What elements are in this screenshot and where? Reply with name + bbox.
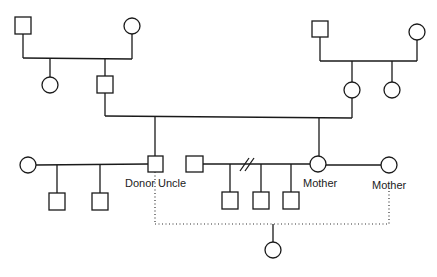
- pedigree-diagram: Donor Uncle Mother Mother: [0, 0, 437, 277]
- maternal-family: [312, 21, 425, 98]
- male-square-icon: [92, 193, 108, 210]
- gen2-marriage: [105, 93, 352, 156]
- male-square-icon: [283, 192, 299, 209]
- female-circle-icon: [384, 82, 400, 98]
- female-circle-icon: [42, 77, 58, 93]
- pedigree-svg: Donor Uncle Mother Mother: [0, 0, 437, 277]
- donor-uncle-square-icon: [148, 156, 163, 172]
- male-square-icon: [97, 76, 113, 93]
- mother-family: Mother Mother: [186, 156, 407, 209]
- mother-circle-icon: [310, 156, 326, 172]
- donor-uncle-family: Donor Uncle: [20, 156, 186, 210]
- male-square-icon: [49, 193, 65, 210]
- marriage-line: [105, 116, 352, 118]
- male-square-icon: [186, 156, 203, 172]
- paternal-family: [15, 17, 140, 93]
- mother-label: Mother: [303, 177, 338, 189]
- female-circle-icon: [265, 242, 281, 258]
- female-circle-icon: [344, 82, 360, 98]
- male-square-icon: [253, 192, 269, 209]
- donor-connection: [155, 172, 389, 258]
- male-square-icon: [222, 192, 238, 209]
- male-square-icon: [15, 17, 31, 34]
- female-circle-icon: [409, 24, 425, 40]
- marriage-line: [23, 58, 132, 59]
- male-square-icon: [312, 21, 328, 37]
- female-circle-icon: [20, 157, 36, 173]
- female-circle-icon: [381, 157, 397, 173]
- female-circle-icon: [124, 18, 140, 34]
- marriage-line: [36, 164, 148, 165]
- mother-label: Mother: [372, 179, 407, 191]
